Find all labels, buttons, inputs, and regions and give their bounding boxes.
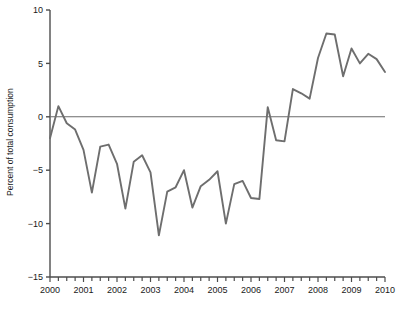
chart-container: 1050−5−10−15 200020012002200320042005200… [0,0,412,309]
x-axis-tick-label: 2002 [107,285,127,295]
plot-background [0,0,412,309]
x-axis-tick-label: 2007 [274,285,294,295]
x-axis-tick-label: 2003 [140,285,160,295]
y-axis-tick-label: 10 [33,5,43,15]
y-axis-tick-label: −15 [28,272,43,282]
x-axis-tick-label: 2008 [308,285,328,295]
x-axis-tick-label: 2009 [341,285,361,295]
y-axis-tick-label: −5 [33,165,43,175]
x-axis-tick-label: 2001 [73,285,93,295]
y-axis-tick-label: 5 [38,59,43,69]
y-axis-title: Percent of total consumption [5,88,15,196]
line-chart: 1050−5−10−15 200020012002200320042005200… [0,0,412,309]
x-axis-tick-label: 2006 [241,285,261,295]
x-axis-tick-label: 2004 [174,285,194,295]
x-axis-tick-label: 2000 [40,285,60,295]
y-axis-tick-label: 0 [38,112,43,122]
y-axis-tick-label: −10 [28,219,43,229]
x-axis-tick-label: 2005 [207,285,227,295]
x-axis-tick-label: 2010 [375,285,395,295]
